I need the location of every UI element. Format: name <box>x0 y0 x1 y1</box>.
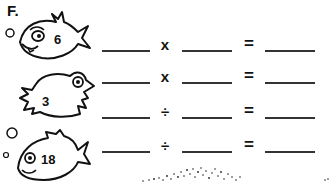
answer-blank-4b[interactable] <box>182 151 232 153</box>
answer-blank-1a[interactable] <box>102 50 150 52</box>
answer-blank-1c[interactable] <box>265 50 315 52</box>
equals-sign: = <box>241 101 257 121</box>
answer-blank-3b[interactable] <box>182 117 232 119</box>
answer-blank-4c[interactable] <box>265 151 315 153</box>
divide-sign: ÷ <box>157 137 173 154</box>
equation-row-3: ÷ = <box>0 103 330 123</box>
equation-row-2: x = <box>0 68 330 88</box>
answer-blank-2c[interactable] <box>265 82 315 84</box>
answer-blank-3c[interactable] <box>265 117 315 119</box>
sand-dots-decoration <box>140 165 330 183</box>
answer-blank-2a[interactable] <box>102 82 150 84</box>
equation-row-4: ÷ = <box>0 137 330 157</box>
equals-sign: = <box>241 66 257 86</box>
equation-row-1: x = <box>0 36 330 56</box>
divide-sign: ÷ <box>157 103 173 120</box>
answer-blank-4a[interactable] <box>102 151 150 153</box>
multiply-sign: x <box>157 36 173 53</box>
answer-blank-3a[interactable] <box>102 117 150 119</box>
answer-blank-1b[interactable] <box>182 50 232 52</box>
answer-blank-2b[interactable] <box>182 82 232 84</box>
multiply-sign: x <box>157 68 173 85</box>
equals-sign: = <box>241 34 257 54</box>
equals-sign: = <box>241 135 257 155</box>
